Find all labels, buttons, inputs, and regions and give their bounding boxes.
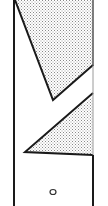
lower-shaded-region: [25, 97, 93, 155]
diagram-canvas: [0, 0, 108, 206]
small-hole-marker: [50, 190, 56, 195]
diagram-figure: [0, 0, 108, 206]
upper-shaded-region: [15, 0, 93, 100]
